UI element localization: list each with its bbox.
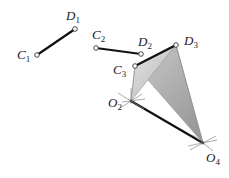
- label-d2: D2: [137, 34, 152, 51]
- joint-c3: [133, 64, 138, 69]
- label-c3: C3: [113, 62, 127, 79]
- linkage-diagram: C1 D1 C2 D2 D3 C3 O2 O4: [0, 0, 229, 178]
- pivot-o2: [130, 100, 133, 103]
- joint-d2: [139, 52, 144, 57]
- label-c2: C2: [92, 27, 105, 44]
- joint-d1: [73, 27, 78, 32]
- pivot-o4: [202, 142, 205, 145]
- label-d1: D1: [65, 8, 80, 25]
- joint-c1: [35, 53, 40, 58]
- label-o2: O2: [108, 95, 122, 112]
- link-c1-d1: [37, 29, 75, 55]
- label-d3: D3: [183, 33, 198, 50]
- link-c2-d2: [96, 48, 141, 54]
- label-c1: C1: [17, 47, 30, 64]
- joint-c2: [94, 46, 99, 51]
- label-o4: O4: [206, 150, 220, 167]
- joint-d3: [174, 43, 179, 48]
